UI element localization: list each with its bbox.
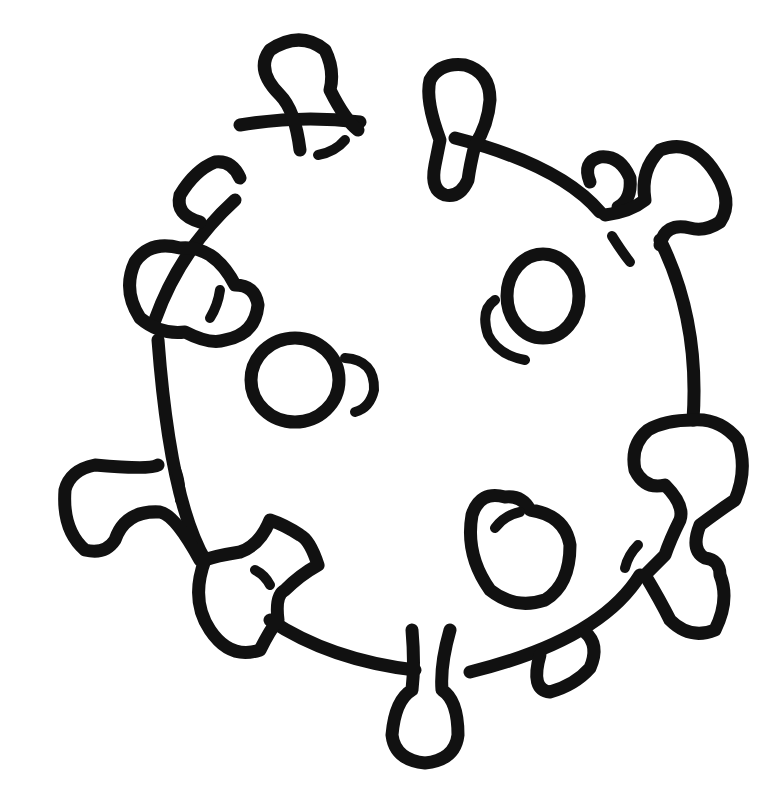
receptor-top-right [507, 254, 579, 338]
virus-illustration: virus [0, 0, 782, 797]
receptor-left [251, 338, 339, 422]
spike-bump-top-left [179, 162, 240, 222]
spike-right [634, 420, 742, 633]
spike-bottom [392, 630, 458, 763]
spike-left [130, 246, 258, 342]
virus-icon [0, 0, 782, 797]
spike-top-center [429, 65, 490, 196]
virus-body-outline [155, 119, 694, 672]
spike-top-left [264, 40, 358, 150]
